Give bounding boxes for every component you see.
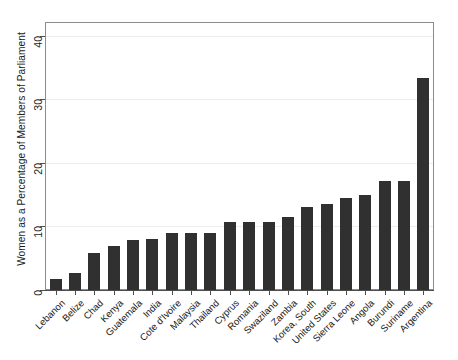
x-tick-mark (75, 291, 76, 295)
y-tick-wrap: 40 (12, 31, 38, 41)
bar (359, 195, 371, 290)
bar (108, 246, 120, 291)
bar (146, 239, 158, 290)
y-tick-label-20: 20 (33, 163, 43, 189)
bar (340, 198, 352, 290)
x-tick-mark (423, 291, 424, 295)
bar (263, 222, 275, 290)
x-tick-mark (230, 291, 231, 295)
x-tick-mark (56, 291, 57, 295)
y-tick-label-10: 10 (33, 226, 43, 252)
x-axis-line (45, 290, 434, 291)
x-tick-mark (94, 291, 95, 295)
bar (379, 181, 391, 290)
x-tick-mark (152, 291, 153, 295)
x-tick-mark (191, 291, 192, 295)
y-tick-wrap: 0 (12, 285, 38, 295)
x-tick-mark (114, 291, 115, 295)
x-tick-mark (346, 291, 347, 295)
bar (204, 233, 216, 290)
y-tick-label-30: 30 (33, 99, 43, 125)
bar (127, 240, 139, 290)
x-tick-mark (210, 291, 211, 295)
x-tick-mark (327, 291, 328, 295)
x-tick-mark (307, 291, 308, 295)
bar-chart-figure: Women as a Percentage of Members of Parl… (0, 0, 458, 360)
x-tick-mark (133, 291, 134, 295)
bars-layer (46, 23, 433, 290)
y-tick-wrap: 20 (12, 158, 38, 168)
bar (398, 181, 410, 290)
bar (88, 253, 100, 291)
x-tick-mark (269, 291, 270, 295)
y-axis-title: Women as a Percentage of Members of Parl… (14, 4, 30, 294)
x-tick-mark (172, 291, 173, 295)
x-tick-mark (249, 291, 250, 295)
x-tick-mark (365, 291, 366, 295)
bar (417, 78, 429, 290)
x-tick-mark (385, 291, 386, 295)
bar (301, 207, 313, 290)
bar (224, 222, 236, 290)
bar (185, 233, 197, 290)
y-tick-wrap: 30 (12, 94, 38, 104)
bar (282, 217, 294, 290)
y-tick-label-0: 0 (33, 290, 43, 316)
y-tick-label-40: 40 (33, 36, 43, 62)
bar (166, 233, 178, 290)
bar (50, 279, 62, 290)
x-tick-mark (404, 291, 405, 295)
bar (321, 204, 333, 290)
y-tick-wrap: 10 (12, 221, 38, 231)
bar (243, 222, 255, 290)
x-tick-mark (288, 291, 289, 295)
bar (69, 273, 81, 290)
